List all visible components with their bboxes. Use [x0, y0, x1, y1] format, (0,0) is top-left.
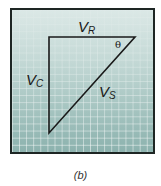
label-vr: VR: [78, 19, 95, 36]
angle-theta-label: θ: [115, 40, 121, 50]
vs-symbol: V: [99, 83, 109, 100]
vs-subscript: S: [109, 90, 116, 101]
label-vs: VS: [99, 84, 116, 101]
vr-symbol: V: [78, 18, 88, 35]
vr-subscript: R: [88, 25, 95, 36]
vc-symbol: V: [26, 71, 36, 88]
figure-caption: (b): [0, 169, 161, 181]
triangle-shape: [49, 37, 135, 133]
vc-subscript: C: [36, 78, 43, 89]
label-vc: VC: [26, 72, 43, 89]
